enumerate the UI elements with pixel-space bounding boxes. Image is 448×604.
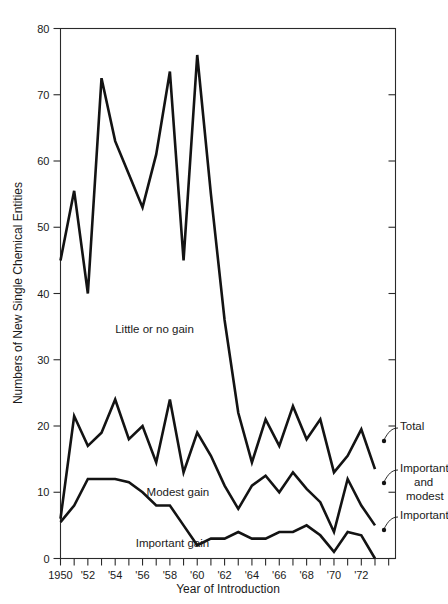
- x-tick-label-1968: '68: [299, 569, 313, 581]
- x-tick-label-1970: '70: [327, 569, 341, 581]
- y-tick-label-50: 50: [37, 221, 49, 233]
- callout-important: Important: [400, 509, 448, 521]
- callout-important-and-modest-line3: modest: [406, 490, 445, 502]
- y-tick-label-30: 30: [37, 354, 49, 366]
- y-axis-title: Numbers of New Single Chemical Entities: [11, 182, 25, 404]
- leader-dot-total: [382, 439, 386, 443]
- x-tick-label-1962: '62: [217, 569, 231, 581]
- y-tick-label-70: 70: [37, 89, 49, 101]
- data-series-group: [61, 55, 375, 559]
- x-tick-label-1964: '64: [245, 569, 259, 581]
- x-tick-label-1952: '52: [81, 569, 95, 581]
- leader-dot-important-and-modest: [382, 481, 386, 485]
- series-total: [61, 55, 375, 472]
- x-axis-title: Year of Introduction: [176, 582, 280, 596]
- x-tick-labels: 1950'52'54'56'58'60'62'64'66'68'70'72: [48, 569, 368, 581]
- y-tick-label-10: 10: [37, 486, 49, 498]
- y-tick-label-40: 40: [37, 288, 49, 300]
- x-tick-label-1956: '56: [135, 569, 149, 581]
- x-tick-label-1954: '54: [108, 569, 122, 581]
- x-tick-label-1960: '60: [190, 569, 204, 581]
- x-tick-label-1966: '66: [272, 569, 286, 581]
- series-important-and-modest: [61, 400, 375, 533]
- y-tick-label-20: 20: [37, 420, 49, 432]
- y-tick-label-80: 80: [37, 23, 49, 35]
- band-label-important-gain: Important gain: [136, 537, 210, 549]
- x-axis: 1950'52'54'56'58'60'62'64'66'68'70'72 Ye…: [48, 559, 388, 597]
- y-tick-label-60: 60: [37, 155, 49, 167]
- x-tick-label-1972: '72: [354, 569, 368, 581]
- y-tick-label-0: 0: [43, 553, 49, 565]
- x-tick-label-1958: '58: [163, 569, 177, 581]
- callout-important-and-modest-line2: and: [414, 476, 433, 488]
- x-tick-marks: [61, 559, 389, 566]
- callout-total: Total: [400, 420, 424, 432]
- x-tick-label-1950: 1950: [48, 569, 72, 581]
- callout-important-and-modest-line1: Important: [400, 462, 448, 474]
- series-callouts: Total Important and modest Important: [382, 420, 448, 532]
- band-label-little-or-no-gain: Little or no gain: [115, 323, 194, 335]
- y-tick-labels: 01020304050607080: [37, 23, 49, 565]
- band-label-modest-gain: Modest gain: [147, 486, 210, 498]
- leader-dot-important: [382, 528, 386, 532]
- chart-figure: 01020304050607080 Numbers of New Single …: [0, 0, 448, 604]
